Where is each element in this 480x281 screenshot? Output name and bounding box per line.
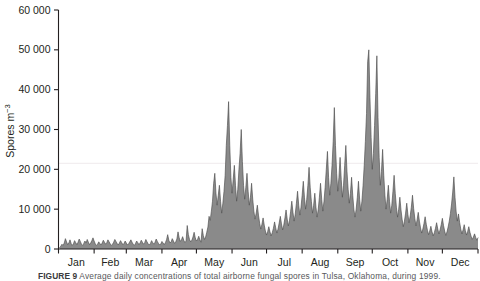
y-tick-label-6: 60 000 <box>18 4 50 16</box>
figure-caption: FIGURE 9 Average daily concentrations of… <box>38 271 478 281</box>
x-tick-label-sep: Sep <box>346 256 365 268</box>
y-tick-label-1: 10 000 <box>18 203 50 215</box>
x-tick-label-jul: Jul <box>278 256 291 268</box>
x-tick-label-feb: Feb <box>101 256 119 268</box>
figure-caption-label: FIGURE 9 <box>38 271 77 281</box>
x-tick-label-may: May <box>204 256 225 268</box>
x-tick-label-dec: Dec <box>451 256 470 268</box>
y-tick-label-4: 40 000 <box>18 83 50 95</box>
x-tick-label-aug: Aug <box>311 256 330 268</box>
x-tick-label-mar: Mar <box>135 256 154 268</box>
figure-container: 010 00020 00030 00040 00050 00060 000 Ja… <box>0 0 480 281</box>
figure-caption-text: Average daily concentrations of total ai… <box>79 271 440 281</box>
x-tick-label-jun: Jun <box>241 256 258 268</box>
y-tick-label-3: 30 000 <box>18 123 50 135</box>
spore-concentration-chart: 010 00020 00030 00040 00050 00060 000 Ja… <box>0 0 480 281</box>
x-tick-label-apr: Apr <box>171 256 188 268</box>
y-tick-label-2: 20 000 <box>18 163 50 175</box>
y-tick-label-0: 0 <box>45 243 51 255</box>
x-tick-label-oct: Oct <box>382 256 398 268</box>
x-tick-label-jan: Jan <box>68 256 85 268</box>
y-tick-label-5: 50 000 <box>18 43 50 55</box>
x-tick-label-nov: Nov <box>416 256 435 268</box>
